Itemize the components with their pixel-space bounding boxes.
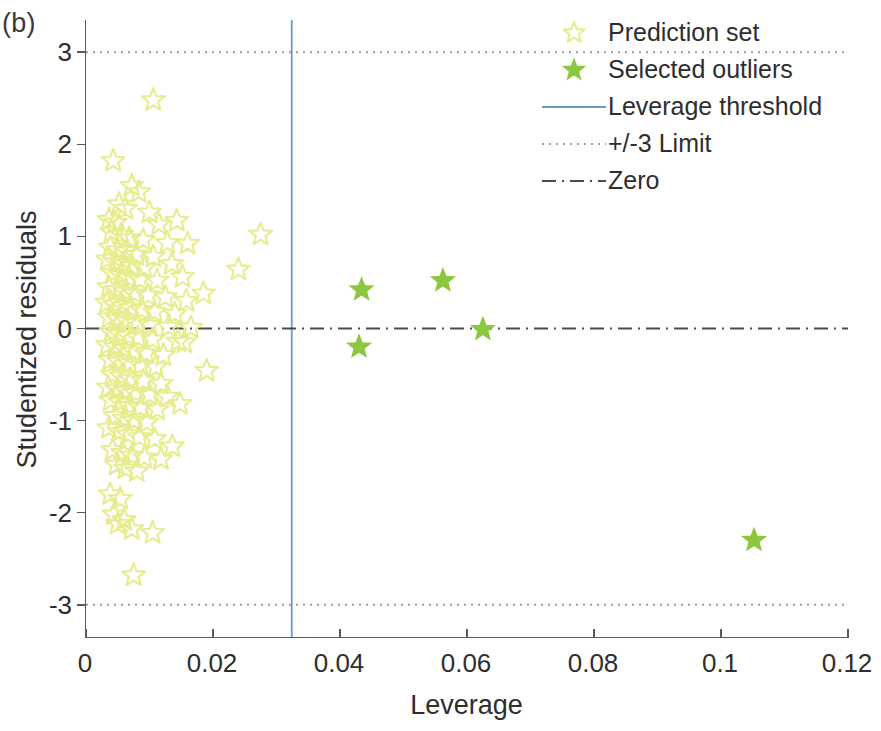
x-axis-tick [212,629,214,638]
legend-label: Zero [608,166,659,195]
x-axis-tick [593,629,595,638]
solid-line-icon [540,88,608,125]
data-point [169,392,192,414]
data-point [171,265,194,287]
x-axis-tick [85,629,87,638]
x-axis-label: Leverage [85,690,848,721]
data-point [150,447,173,469]
data-point [142,88,165,110]
data-point [743,528,766,550]
x-axis-tick-label: 0.12 [822,648,873,679]
series-prediction-set [96,88,273,585]
legend-item[interactable]: Prediction set [540,14,870,51]
data-point [165,209,188,231]
data-point [431,269,454,291]
y-axis-tick [77,512,86,514]
y-axis-tick-label: -3 [20,589,72,620]
dotted-line-icon [540,125,608,162]
x-axis-tick-label: 0.02 [187,648,238,679]
y-axis-tick-label: 0 [20,313,72,344]
legend-label: Prediction set [608,18,759,47]
series-selected-outliers [348,269,766,550]
data-point [227,258,250,280]
figure-panel-b: (b) Studentized residuals Leverage Predi… [0,0,881,731]
y-axis-tick-label: 3 [20,37,72,68]
x-axis-tick [339,629,341,638]
data-point [156,231,179,253]
y-axis-tick-label: 1 [20,221,72,252]
legend: Prediction setSelected outliersLeverage … [540,14,870,199]
data-point [141,521,164,543]
x-axis-tick-label: 0 [78,648,92,679]
data-point [348,335,371,357]
y-axis-tick [77,604,86,606]
star-filled-icon [540,51,608,88]
x-axis-tick-label: 0.08 [568,648,619,679]
y-axis-tick [77,51,86,53]
y-axis-tick [77,236,86,238]
y-axis-tick [77,144,86,146]
data-point [127,180,150,202]
legend-label: Selected outliers [608,55,793,84]
x-axis-tick [847,629,849,638]
x-axis-tick-label: 0.04 [314,648,365,679]
y-axis-tick-label: -2 [20,497,72,528]
y-axis-tick-label: -1 [20,405,72,436]
x-axis-tick [466,629,468,638]
y-axis-tick [77,328,86,330]
data-point [471,317,494,339]
x-axis-tick [720,629,722,638]
star-outline-icon [540,14,608,51]
data-point [249,223,272,245]
legend-item[interactable]: Zero [540,162,870,199]
x-axis-tick-label: 0.06 [441,648,492,679]
data-point [102,149,125,171]
legend-item[interactable]: Selected outliers [540,51,870,88]
data-point [350,278,373,300]
x-axis-tick-label: 0.1 [702,648,738,679]
data-point [122,563,145,585]
panel-label: (b) [2,8,36,39]
y-axis-tick [77,420,86,422]
legend-label: Leverage threshold [608,92,822,121]
data-point [195,359,218,381]
legend-item[interactable]: +/-3 Limit [540,125,870,162]
legend-item[interactable]: Leverage threshold [540,88,870,125]
data-point [176,232,199,254]
y-axis-tick-label: 2 [20,129,72,160]
dashdot-line-icon [540,162,608,199]
legend-label: +/-3 Limit [608,129,712,158]
